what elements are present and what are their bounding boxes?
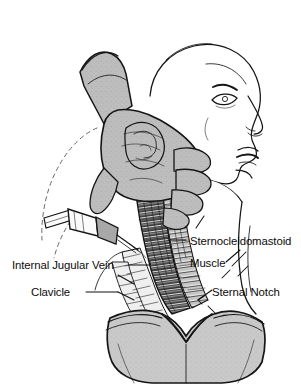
illustration-canvas: Sternocleidomastoid Muscle Internal Jugu… <box>0 0 301 384</box>
label-internal-jugular-vein: Internal Jugular Vein <box>12 259 114 271</box>
label-sternocleidomastoid-line2: Muscle <box>190 257 225 269</box>
label-sternal-notch: Sternal Notch <box>212 286 280 298</box>
anatomical-illustration: Sternocleidomastoid Muscle Internal Jugu… <box>0 0 301 384</box>
label-clavicle: Clavicle <box>31 286 70 298</box>
label-sternocleidomastoid-line1: Sternocleidomastoid <box>190 235 291 247</box>
